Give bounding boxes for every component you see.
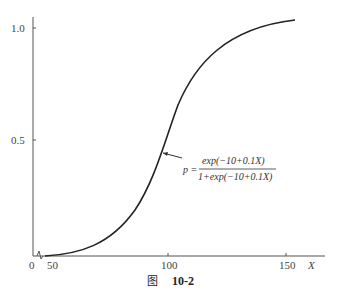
y-tick-label-05: 0.5	[11, 134, 25, 146]
logistic-chart: 1.0 0.5 0 50 100 150 X p = exp(−10+0.1X)…	[0, 0, 339, 295]
x-axis-label: X	[307, 259, 316, 271]
y-tick-label-1: 1.0	[11, 22, 25, 34]
formula-denominator: 1+exp(−10+0.1X)	[198, 171, 273, 183]
x-tick-label-50: 50	[47, 259, 59, 271]
x-tick-label-150: 150	[279, 259, 296, 271]
formula-lhs: p =	[182, 164, 197, 175]
x-tick-label-100: 100	[161, 259, 178, 271]
x-tick-label-0: 0	[29, 259, 35, 271]
logistic-curve	[45, 20, 295, 256]
axis-break-icon	[37, 251, 43, 259]
figure-caption-number: 10-2	[172, 274, 194, 288]
figure-caption-prefix: 图	[147, 275, 158, 288]
formula-numerator: exp(−10+0.1X)	[202, 155, 265, 167]
arrowhead-icon	[163, 152, 168, 156]
